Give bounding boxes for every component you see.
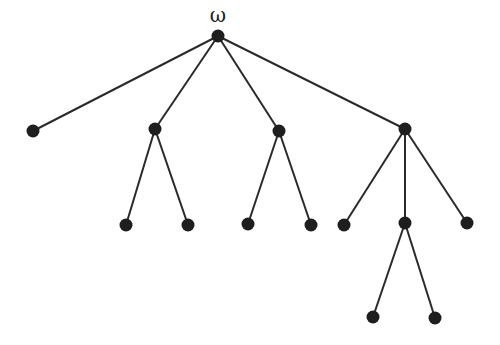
node-d2b xyxy=(429,312,442,325)
root-label: ω xyxy=(210,3,226,27)
node-b xyxy=(149,123,162,136)
node-c1 xyxy=(242,218,255,231)
node-d2a xyxy=(367,311,380,324)
edge-c-c2 xyxy=(279,131,311,225)
node-d3 xyxy=(461,217,474,230)
edge-root-b xyxy=(155,36,218,129)
node-a xyxy=(27,125,40,138)
tree-edges xyxy=(33,36,467,318)
edge-root-d xyxy=(218,36,405,129)
tree-nodes xyxy=(27,30,474,325)
edge-d-d1 xyxy=(344,129,405,225)
node-b1 xyxy=(120,219,133,232)
node-c xyxy=(273,125,286,138)
edge-c-c1 xyxy=(248,131,279,224)
edge-d-d3 xyxy=(405,129,467,223)
edge-d2-d2a xyxy=(373,223,405,317)
node-d2 xyxy=(399,217,412,230)
node-b2 xyxy=(182,219,195,232)
edge-b-b1 xyxy=(126,129,155,225)
edge-d2-d2b xyxy=(405,223,435,318)
tree-diagram: ω xyxy=(0,0,500,345)
node-c2 xyxy=(305,219,318,232)
node-root xyxy=(212,30,225,43)
edge-b-b2 xyxy=(155,129,188,225)
node-d1 xyxy=(338,219,351,232)
node-d xyxy=(399,123,412,136)
edge-root-a xyxy=(33,36,218,131)
